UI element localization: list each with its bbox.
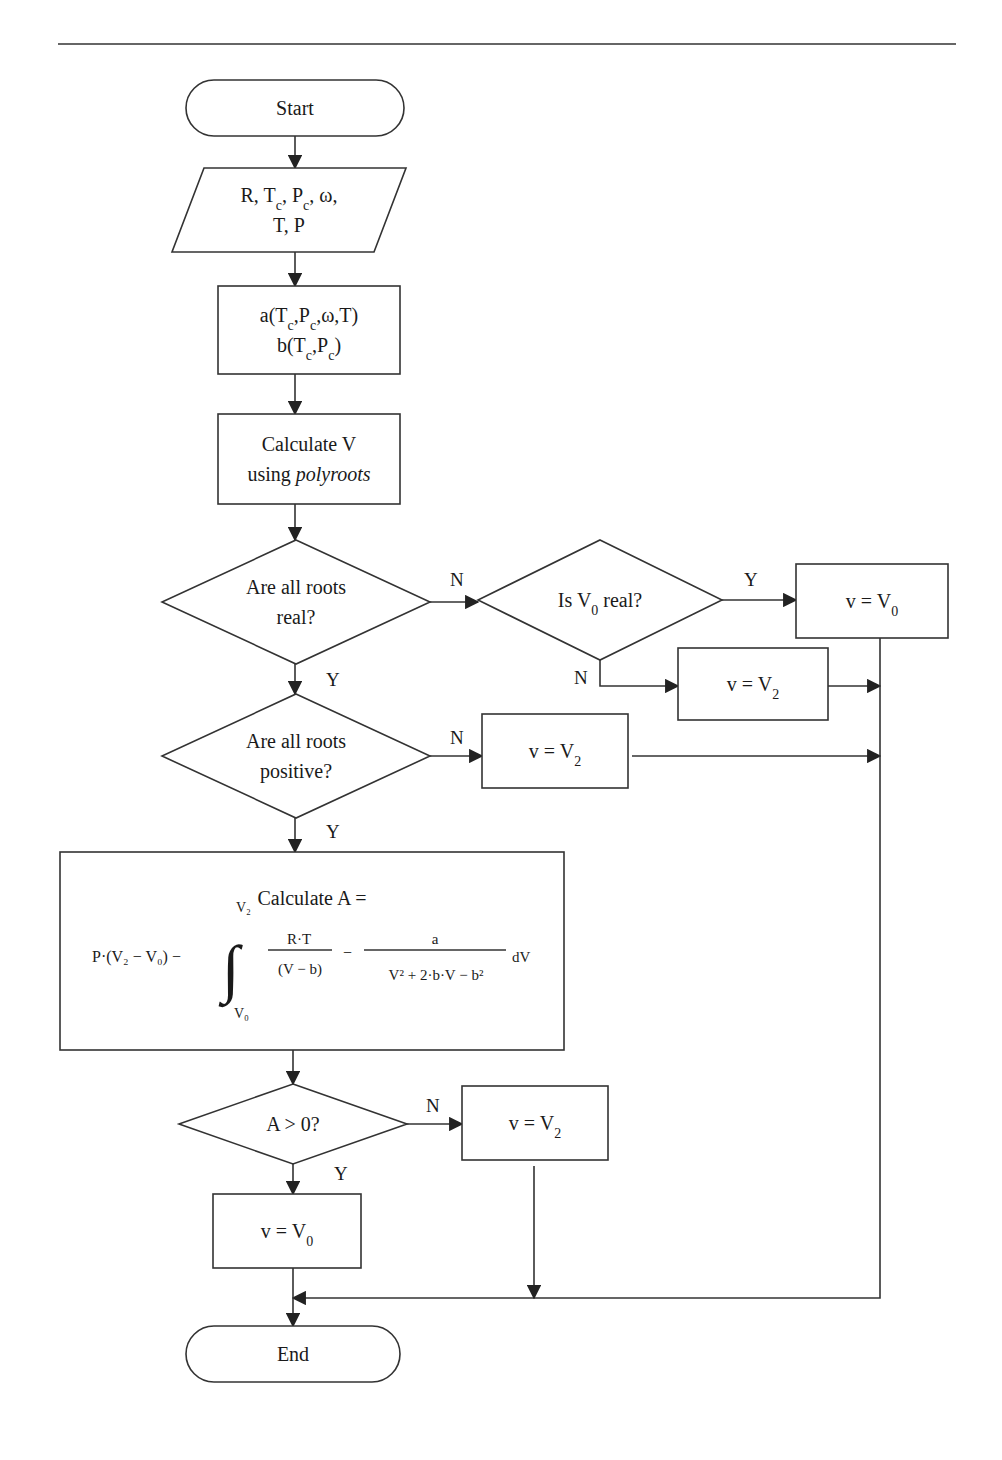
minus-sign: −: [343, 944, 352, 961]
connector-aPos-to-setV0b: Y: [293, 1163, 348, 1194]
node-label-line: End: [277, 1343, 309, 1365]
process-shape: [218, 414, 400, 504]
node-label-line: using polyroots: [247, 463, 370, 486]
node-setV2a: v = V2: [678, 648, 828, 720]
fraction2-numerator: a: [432, 931, 439, 947]
node-layer: StartR, Tc, Pc, ω,T, Pa(Tc,Pc,ω,T)b(Tc,P…: [60, 80, 948, 1382]
node-allPos: Are all rootspositive?: [162, 694, 430, 818]
branch-label-n: N: [450, 569, 464, 590]
node-label-line: A > 0?: [266, 1113, 320, 1135]
fraction2-denominator: V² + 2·b·V − b²: [389, 967, 484, 983]
node-label-line: positive?: [260, 760, 332, 783]
node-setV2c: v = V2: [462, 1086, 608, 1160]
differential: dV: [512, 949, 531, 965]
branch-label-n: N: [426, 1095, 440, 1116]
node-label-line: T, P: [273, 214, 305, 236]
branch-label-y: Y: [326, 821, 340, 842]
input-output-shape: [172, 168, 406, 252]
node-setV2b: v = V2: [482, 714, 628, 788]
node-setV0b: v = V0: [213, 1194, 361, 1268]
connector-v0Real-to-setV0a: Y: [722, 569, 796, 600]
node-end: End: [186, 1326, 400, 1382]
node-start: Start: [186, 80, 404, 136]
fraction1-denominator: (V − b): [278, 961, 322, 978]
connector-allReal-to-allPos: Y: [295, 664, 340, 694]
connector-aPos-to-setV2c: N: [407, 1095, 462, 1124]
node-aPos: A > 0?: [179, 1084, 407, 1164]
branch-label-y: Y: [334, 1163, 348, 1184]
node-label-line: real?: [277, 606, 316, 628]
node-label-line: Calculate V: [262, 433, 357, 455]
node-label-line: Are all roots: [246, 730, 346, 752]
node-setV0a: v = V0: [796, 564, 948, 638]
node-v0Real: Is V0 real?: [478, 540, 722, 660]
integral-lower-bound: V₀: [234, 1006, 249, 1021]
decision-shape: [162, 540, 430, 664]
node-input: R, Tc, Pc, ω,T, P: [172, 168, 406, 252]
connector-allPos-to-calcA: Y: [295, 818, 340, 852]
formula-prefix: P·(V₂ − V₀) −: [92, 948, 181, 966]
branch-label-n: N: [450, 727, 464, 748]
connector-allPos-to-setV2b: N: [430, 727, 482, 756]
formula-title: Calculate A =: [257, 887, 366, 909]
node-allReal: Are all rootsreal?: [162, 540, 430, 664]
node-params: a(Tc,Pc,ω,T)b(Tc,Pc): [218, 286, 400, 374]
branch-label-y: Y: [326, 669, 340, 690]
flowchart: NYNYNYNY StartR, Tc, Pc, ω,T, Pa(Tc,Pc,ω…: [0, 0, 1002, 1460]
branch-label-n: N: [574, 667, 588, 688]
branch-label-y: Y: [744, 569, 758, 590]
connector-line: [600, 660, 678, 686]
node-label-line: Start: [276, 97, 314, 119]
fraction1-numerator: R·T: [287, 931, 311, 947]
connector-v0Real-to-setV2a: N: [574, 660, 678, 688]
connector-allReal-to-v0Real: N: [430, 569, 478, 602]
integral-upper-bound: V₂: [236, 900, 251, 915]
node-calcV: Calculate Vusing polyroots: [218, 414, 400, 504]
decision-shape: [162, 694, 430, 818]
integral-sign: ∫: [218, 933, 243, 1008]
node-label-line: Are all roots: [246, 576, 346, 598]
